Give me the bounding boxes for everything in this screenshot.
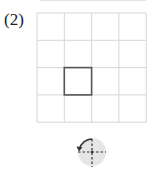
center-point [91, 151, 94, 154]
grid-diagram [0, 0, 148, 169]
highlighted-square [64, 68, 91, 95]
rotate-90-counterclockwise-icon [77, 138, 107, 167]
